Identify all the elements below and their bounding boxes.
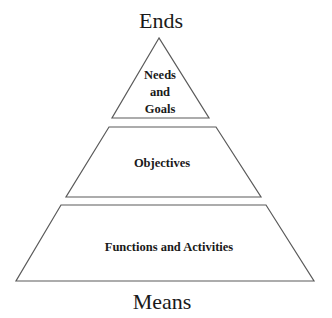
pyramid-level-middle: Objectives bbox=[66, 127, 261, 197]
pyramid-level-apex: Needs and Goals bbox=[112, 38, 209, 118]
pyramid-level-base: Functions and Activities bbox=[16, 205, 314, 281]
means-ends-pyramid: Ends Needs and Goals Objectives Function… bbox=[0, 0, 332, 318]
apex-line-2: and bbox=[150, 85, 170, 99]
ends-label: Ends bbox=[139, 8, 183, 33]
functions-label: Functions and Activities bbox=[105, 240, 234, 254]
apex-line-1: Needs bbox=[144, 68, 176, 82]
objectives-label: Objectives bbox=[134, 156, 190, 170]
means-label: Means bbox=[133, 289, 192, 314]
apex-line-3: Goals bbox=[145, 102, 176, 116]
